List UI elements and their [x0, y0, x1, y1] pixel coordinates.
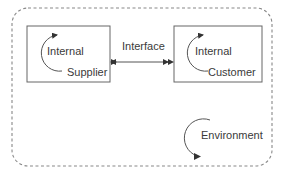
arrowhead-left-icon — [110, 59, 116, 65]
supplier-label-internal: Internal — [47, 46, 84, 57]
customer-label-internal: Internal — [195, 46, 232, 57]
interface-label: Interface — [122, 41, 165, 52]
diagram-svg — [0, 0, 286, 182]
environment-label: Environment — [201, 130, 263, 141]
environment-arrowhead-icon — [194, 153, 201, 160]
diagram-canvas: Internal Supplier Interface Internal Cus… — [0, 0, 286, 182]
customer-label-role: Customer — [208, 67, 256, 78]
supplier-label-role: Supplier — [67, 67, 107, 78]
arrowhead-right-icon — [168, 59, 174, 65]
